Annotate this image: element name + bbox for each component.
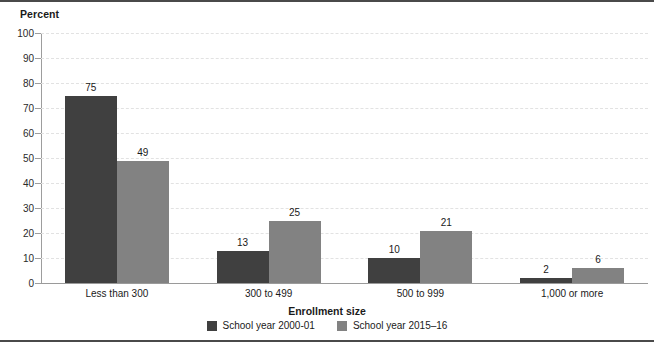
y-tick-mark bbox=[35, 258, 41, 259]
gridline-90 bbox=[41, 58, 648, 59]
bar-value-label: 10 bbox=[389, 244, 400, 255]
y-tick-mark bbox=[35, 233, 41, 234]
x-category-label: 300 to 499 bbox=[245, 288, 292, 299]
y-tick-label: 20 bbox=[0, 228, 34, 239]
y-tick-mark bbox=[35, 183, 41, 184]
gridline-0 bbox=[41, 283, 648, 284]
x-axis-title: Enrollment size bbox=[0, 305, 654, 317]
y-tick-label: 90 bbox=[0, 53, 34, 64]
y-tick-label: 70 bbox=[0, 103, 34, 114]
bar-value-label: 75 bbox=[85, 82, 96, 93]
gridline-50 bbox=[41, 158, 648, 159]
gridline-60 bbox=[41, 133, 648, 134]
x-category-label: 500 to 999 bbox=[397, 288, 444, 299]
chart-legend: School year 2000-01School year 2015–16 bbox=[0, 320, 654, 331]
x-category-label: Less than 300 bbox=[85, 288, 148, 299]
bar-value-label: 2 bbox=[543, 264, 549, 275]
y-tick-label: 60 bbox=[0, 128, 34, 139]
bar-value-label: 49 bbox=[137, 147, 148, 158]
y-tick-label: 50 bbox=[0, 153, 34, 164]
y-axis-title: Percent bbox=[20, 8, 59, 20]
bar bbox=[269, 221, 321, 284]
bar bbox=[520, 278, 572, 283]
y-tick-mark bbox=[35, 283, 41, 284]
bar bbox=[217, 251, 269, 284]
bar-value-label: 25 bbox=[289, 207, 300, 218]
y-tick-label: 100 bbox=[0, 28, 34, 39]
x-category-label: 1,000 or more bbox=[541, 288, 603, 299]
bar-value-label: 21 bbox=[441, 217, 452, 228]
bar bbox=[420, 231, 472, 284]
gridline-100 bbox=[41, 33, 648, 34]
bar bbox=[368, 258, 420, 283]
gridline-80 bbox=[41, 83, 648, 84]
y-tick-mark bbox=[35, 83, 41, 84]
legend-swatch bbox=[207, 321, 217, 331]
y-tick-mark bbox=[35, 208, 41, 209]
y-tick-label: 30 bbox=[0, 203, 34, 214]
y-tick-mark bbox=[35, 158, 41, 159]
y-tick-label: 80 bbox=[0, 78, 34, 89]
y-tick-label: 40 bbox=[0, 178, 34, 189]
y-tick-mark bbox=[35, 133, 41, 134]
legend-item[interactable]: School year 2000-01 bbox=[207, 320, 315, 331]
legend-label: School year 2015–16 bbox=[353, 320, 448, 331]
bar bbox=[65, 96, 117, 284]
bar-value-label: 13 bbox=[237, 237, 248, 248]
bar bbox=[117, 161, 169, 284]
legend-label: School year 2000-01 bbox=[223, 320, 315, 331]
legend-swatch bbox=[337, 321, 347, 331]
bar bbox=[572, 268, 624, 283]
y-tick-mark bbox=[35, 58, 41, 59]
y-tick-mark bbox=[35, 33, 41, 34]
plot-area: 75491325102126 bbox=[41, 33, 648, 283]
gridline-70 bbox=[41, 108, 648, 109]
y-tick-mark bbox=[35, 108, 41, 109]
y-tick-label: 0 bbox=[0, 278, 34, 289]
chart-figure: Percent 0102030405060708090100 754913251… bbox=[0, 0, 654, 342]
bar-value-label: 6 bbox=[595, 254, 601, 265]
legend-item[interactable]: School year 2015–16 bbox=[337, 320, 448, 331]
y-tick-label: 10 bbox=[0, 253, 34, 264]
